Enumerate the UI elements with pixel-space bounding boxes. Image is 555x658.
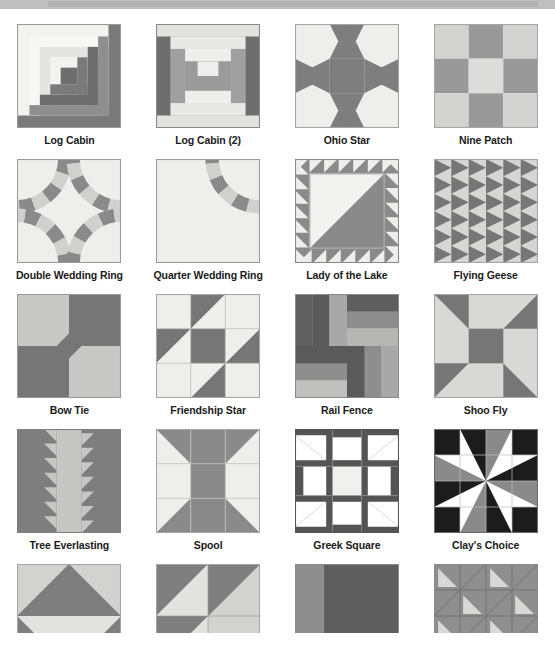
quilt-block-log-cabin[interactable]: Log Cabin (0, 24, 139, 159)
clays-choice-swatch (434, 429, 538, 533)
quilt-block-shoo-fly[interactable]: Shoo Fly (416, 294, 555, 429)
quarter-wedding-ring-swatch (156, 159, 260, 263)
quilt-block-caption: Clay's Choice (452, 539, 519, 551)
quilt-block-lady-of-the-lake[interactable]: Lady of the Lake (278, 159, 417, 294)
shoo-fly-swatch (434, 294, 538, 398)
quilt-row-4: Tree Everlasting (0, 429, 555, 564)
spool-swatch (156, 429, 260, 533)
quilt-row-3: Bow Tie (0, 294, 555, 429)
quilt-block-log-cabin-2[interactable]: Log Cabin (2) (139, 24, 278, 159)
friendship-star-swatch (156, 294, 260, 398)
quilt-block-spool[interactable]: Spool (139, 429, 278, 564)
log-cabin-swatch (17, 24, 121, 128)
quilt-block-caption: Lady of the Lake (306, 269, 387, 281)
quilt-block-corner-square[interactable] (278, 564, 417, 658)
quilt-block-caption: Log Cabin (2) (175, 134, 241, 146)
pinwheel-hst-swatch (17, 564, 121, 633)
quilt-block-birds-in-air[interactable] (139, 564, 278, 658)
greek-square-swatch (295, 429, 399, 533)
quilt-block-clays-choice[interactable]: Clay's Choice (416, 429, 555, 564)
quilt-block-caption: Bow Tie (50, 404, 89, 416)
quilt-block-flying-geese[interactable]: Flying Geese (416, 159, 555, 294)
quilt-row-5 (0, 564, 555, 658)
quilt-block-caption: Double Wedding Ring (16, 269, 123, 281)
quilt-row-2: Double Wedding Ring (0, 159, 555, 294)
quilt-block-pinwheel-hst[interactable] (0, 564, 139, 658)
quilt-block-caption: Friendship Star (170, 404, 246, 416)
quilt-block-caption: Shoo Fly (464, 404, 508, 416)
quilt-block-ohio-star[interactable]: Ohio Star (278, 24, 417, 159)
corner-square-swatch (295, 564, 399, 633)
log-cabin-2-swatch (156, 24, 260, 128)
quilt-block-caption: Flying Geese (454, 269, 518, 281)
quilt-block-caption: Greek Square (313, 539, 380, 551)
quilt-block-caption: Quarter Wedding Ring (154, 269, 263, 281)
quilt-block-caption: Spool (194, 539, 223, 551)
quilt-block-caption: Log Cabin (44, 134, 94, 146)
bow-tie-swatch (17, 294, 121, 398)
flying-geese-swatch (434, 159, 538, 263)
quilt-block-sawtooth-grid[interactable] (416, 564, 555, 658)
double-wedding-ring-swatch (17, 159, 121, 263)
quilt-block-caption: Rail Fence (321, 404, 373, 416)
sawtooth-grid-swatch (434, 564, 538, 633)
rail-fence-swatch (295, 294, 399, 398)
tree-everlasting-swatch (17, 429, 121, 533)
quilt-block-greek-square[interactable]: Greek Square (278, 429, 417, 564)
ohio-star-swatch (295, 24, 399, 128)
top-gray-bar-inner (48, 1, 538, 7)
birds-in-air-swatch (156, 564, 260, 633)
nine-patch-swatch (434, 24, 538, 128)
lady-of-the-lake-swatch (295, 159, 399, 263)
top-gray-bar (0, 0, 555, 9)
quilt-block-caption: Nine Patch (459, 134, 512, 146)
quilt-block-bow-tie[interactable]: Bow Tie (0, 294, 139, 429)
quilt-block-tree-everlasting[interactable]: Tree Everlasting (0, 429, 139, 564)
quilt-block-nine-patch[interactable]: Nine Patch (416, 24, 555, 159)
quilt-block-friendship-star[interactable]: Friendship Star (139, 294, 278, 429)
quilt-block-rail-fence[interactable]: Rail Fence (278, 294, 417, 429)
quilt-block-caption: Ohio Star (324, 134, 370, 146)
quilt-block-caption: Tree Everlasting (30, 539, 110, 551)
quilt-block-quarter-wedding-ring[interactable]: Quarter Wedding Ring (139, 159, 278, 294)
quilt-block-grid: Log Cabin (0, 24, 555, 658)
quilt-block-double-wedding-ring[interactable]: Double Wedding Ring (0, 159, 139, 294)
quilt-row-1: Log Cabin (0, 24, 555, 159)
